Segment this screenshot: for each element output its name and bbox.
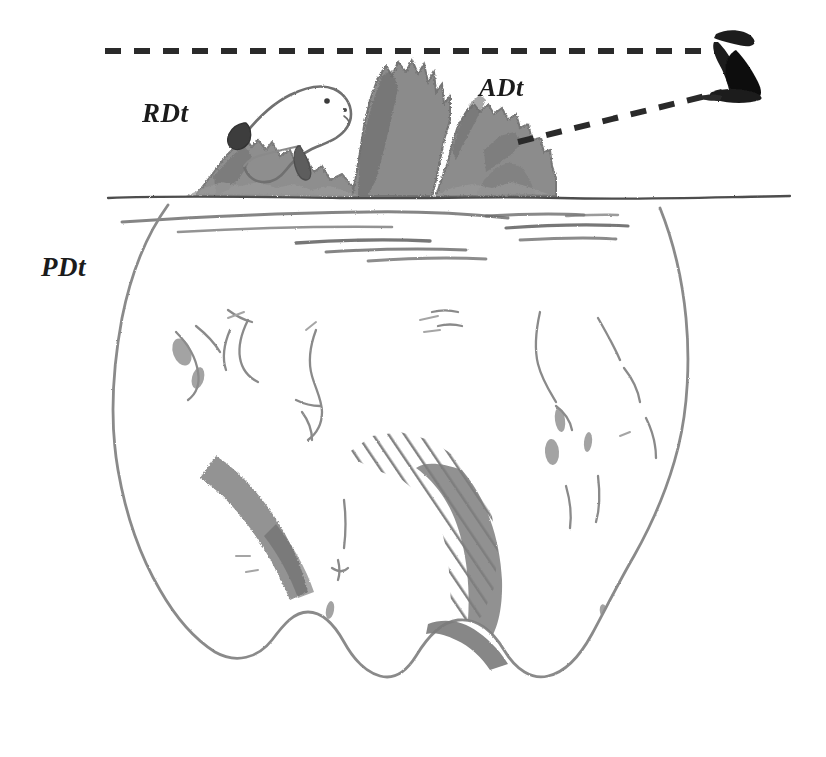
sea-stroke-4 [326, 249, 466, 252]
sea-stroke-7 [506, 225, 628, 228]
seal-nostril [343, 108, 347, 112]
sea-stroke-8 [520, 238, 616, 240]
label-adt: ADt [479, 73, 524, 103]
sea-stroke-1 [122, 212, 508, 222]
iceberg-illustration [0, 0, 826, 757]
sea-stroke-3 [296, 240, 430, 243]
seal-mouth [344, 116, 349, 125]
sea-stroke-2 [178, 227, 392, 232]
figure-canvas: RDt ADt PDt [0, 0, 826, 757]
slanted-dashed-line [518, 92, 722, 142]
observer-tail [700, 95, 722, 102]
sea-stroke-9 [566, 215, 618, 216]
label-rdt: RDt [142, 98, 189, 129]
label-pdt: PDt [41, 252, 86, 283]
waterline-group [108, 196, 790, 261]
observer-head-plume [714, 30, 755, 46]
observer-icon [700, 30, 762, 103]
seal-eye [324, 98, 330, 104]
sea-stroke-5 [368, 258, 486, 261]
iceberg-below-water [113, 205, 688, 677]
